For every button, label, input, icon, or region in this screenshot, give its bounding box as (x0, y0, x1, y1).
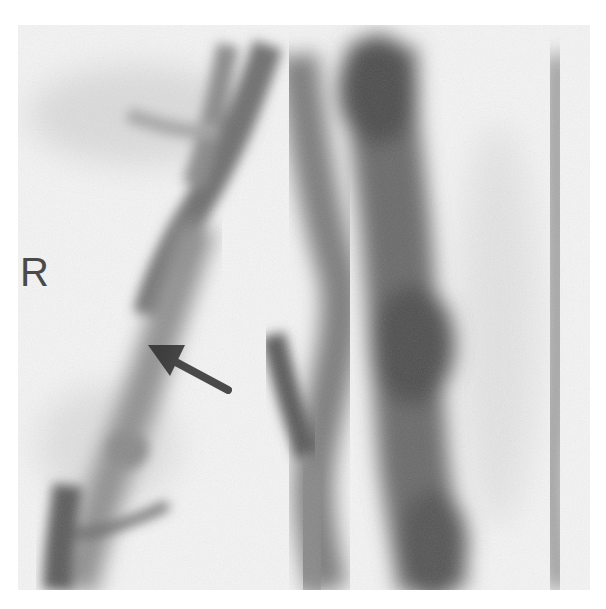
arrow-icon (0, 0, 606, 609)
